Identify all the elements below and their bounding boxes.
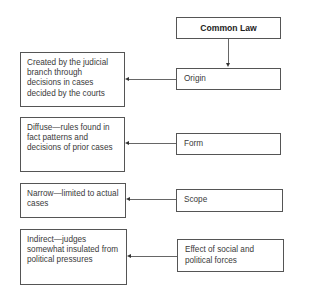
form-box: Form xyxy=(176,133,281,155)
arrow-down-icon xyxy=(226,63,230,67)
arrow-left-icon xyxy=(126,197,130,201)
scope-description-box: Narrow—limited to actual cases xyxy=(20,183,126,218)
origin-description: Created by the judicial branch through d… xyxy=(27,58,108,98)
origin-connector xyxy=(128,79,176,80)
effect-description-box: Indirect—judges somewhat insulated from … xyxy=(20,229,127,285)
root-label: Common Law xyxy=(200,23,256,33)
form-connector xyxy=(128,143,176,144)
origin-box: Origin xyxy=(176,68,281,90)
form-label: Form xyxy=(184,139,203,149)
scope-box: Scope xyxy=(176,189,283,212)
scope-description: Narrow—limited to actual cases xyxy=(27,189,118,208)
effect-box: Effect of social and political forces xyxy=(177,239,284,272)
common-law-box: Common Law xyxy=(176,17,281,39)
scope-connector xyxy=(129,199,176,200)
origin-label: Origin xyxy=(184,74,206,84)
form-description: Diffuse—rules found in fact patterns and… xyxy=(27,123,113,152)
arrow-left-icon xyxy=(125,141,129,145)
effect-connector xyxy=(130,256,177,257)
arrow-left-icon xyxy=(125,77,129,81)
scope-label: Scope xyxy=(184,195,207,205)
root-to-origin-connector xyxy=(228,39,229,64)
origin-description-box: Created by the judicial branch through d… xyxy=(20,52,125,107)
form-description-box: Diffuse—rules found in fact patterns and… xyxy=(20,117,125,172)
arrow-left-icon xyxy=(127,254,131,258)
effect-label: Effect of social and political forces xyxy=(185,245,276,265)
effect-description: Indirect—judges somewhat insulated from … xyxy=(27,235,118,264)
